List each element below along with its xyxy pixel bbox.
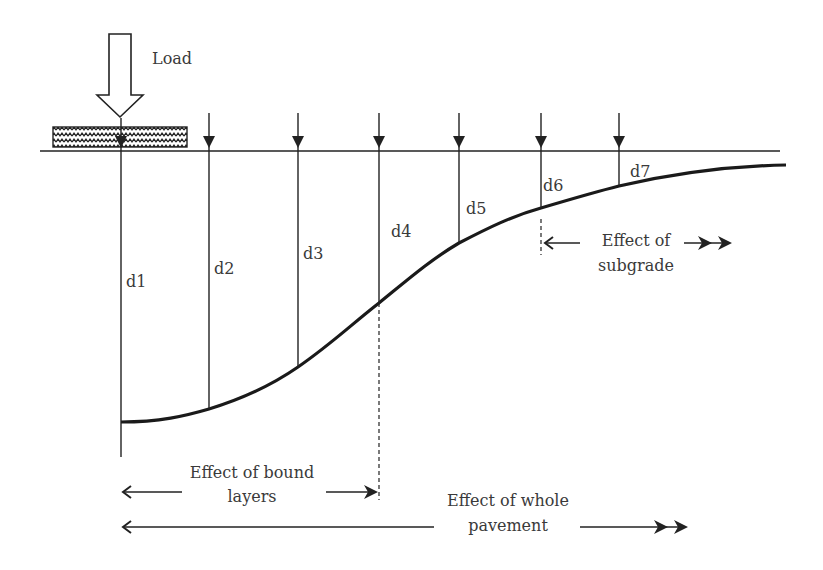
label-d3: d3 <box>303 244 323 263</box>
deflection-diagram: Load d1 d2 d3 d4 d5 d6 d7 <box>0 0 823 570</box>
bound-layers-label-line2: layers <box>227 487 276 506</box>
sensor-d7 <box>613 113 625 186</box>
subgrade-zone: Effect of subgrade <box>545 231 732 275</box>
label-d2: d2 <box>214 259 234 278</box>
label-d4: d4 <box>391 222 411 241</box>
subgrade-label-line2: subgrade <box>598 256 674 275</box>
bound-layers-zone: Effect of bound layers <box>123 463 378 506</box>
label-d1: d1 <box>126 272 146 291</box>
label-d6: d6 <box>543 176 563 195</box>
deflection-bowl-curve <box>121 165 786 422</box>
sensor-d4 <box>373 113 385 303</box>
load-arrow-icon <box>97 34 143 117</box>
whole-pavement-zone: Effect of whole pavement <box>123 491 688 535</box>
label-d5: d5 <box>466 199 486 218</box>
subgrade-label-line1: Effect of <box>602 231 672 250</box>
whole-pavement-label-line2: pavement <box>468 516 548 535</box>
label-d7: d7 <box>630 162 650 181</box>
bound-layers-label-line1: Effect of bound <box>190 463 314 482</box>
whole-pavement-label-line1: Effect of whole <box>447 491 569 510</box>
load-label: Load <box>152 49 192 68</box>
sensor-d5 <box>453 113 465 243</box>
